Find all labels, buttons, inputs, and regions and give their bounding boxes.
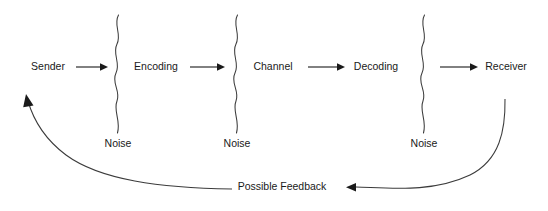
noise-barrier-3 — [421, 15, 425, 133]
noise-label-3: Noise — [411, 137, 438, 149]
noise-barrier-1 — [115, 15, 119, 133]
flow-arrow-sender-to-encoding — [76, 63, 108, 71]
communication-model-diagram: Sender Encoding Channel Decoding Receive… — [0, 0, 548, 211]
flow-arrow-channel-to-decoding — [308, 63, 345, 71]
flow-arrow-encoding-to-channel — [190, 63, 225, 71]
stage-label-encoding: Encoding — [134, 60, 178, 72]
flow-arrow-decoding-to-receiver — [440, 63, 478, 71]
feedback-label: Possible Feedback — [238, 180, 327, 192]
stage-label-receiver: Receiver — [485, 60, 527, 72]
noise-label-1: Noise — [105, 137, 132, 149]
stage-label-decoding: Decoding — [354, 60, 399, 72]
diagram-canvas: Sender Encoding Channel Decoding Receive… — [0, 0, 548, 211]
stage-label-sender: Sender — [31, 60, 65, 72]
stage-label-channel: Channel — [253, 60, 292, 72]
noise-label-2: Noise — [224, 137, 251, 149]
noise-barrier-2 — [234, 15, 238, 133]
